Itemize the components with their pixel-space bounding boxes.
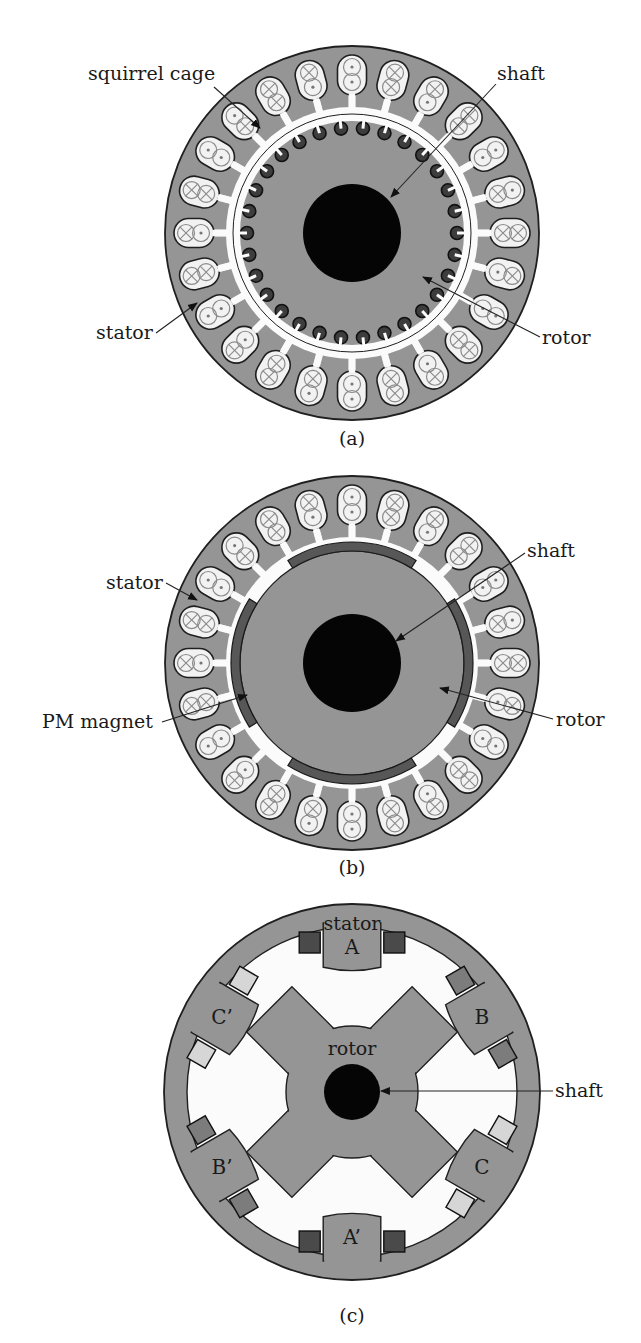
coil-A <box>384 932 405 953</box>
shaft <box>324 1064 380 1120</box>
pole-label: B <box>475 1005 490 1029</box>
caption-c: (c) <box>339 1304 364 1326</box>
label-rotor: rotor <box>328 1037 378 1059</box>
label-stator: stator <box>96 321 154 343</box>
pole-label: C’ <box>211 1005 233 1029</box>
switched-reluctance-motor-diagram: ABCA’B’C’statorrotorshaft(c) <box>164 904 603 1326</box>
coil-A <box>299 932 320 953</box>
label-stator: stator <box>324 912 382 934</box>
coil-A <box>299 1231 320 1252</box>
caption-a: (a) <box>339 427 365 449</box>
induction-motor-diagram: squirrel cageshaftstatorrotor(a) <box>88 46 592 449</box>
label-shaft: shaft <box>527 539 575 561</box>
coil-A <box>384 1231 405 1252</box>
label-shaft: shaft <box>555 1079 603 1101</box>
label-rotor: rotor <box>556 708 606 730</box>
pm-motor-diagram: statorshaftPM magnetrotor(b) <box>42 476 606 878</box>
pole-label: B’ <box>212 1155 233 1179</box>
label-squirrel-cage: squirrel cage <box>88 62 215 84</box>
label-stator: stator <box>106 571 164 593</box>
shaft <box>303 614 401 712</box>
label-pm-magnet: PM magnet <box>42 710 153 732</box>
label-rotor: rotor <box>542 326 592 348</box>
motor-diagrams-figure: squirrel cageshaftstatorrotor(a) stators… <box>0 0 641 1343</box>
shaft <box>303 184 401 282</box>
pole-label: A <box>344 935 360 959</box>
label-shaft: shaft <box>497 62 545 84</box>
caption-b: (b) <box>339 856 366 878</box>
pole-label: A’ <box>342 1225 361 1249</box>
pole-label: C <box>474 1155 489 1179</box>
